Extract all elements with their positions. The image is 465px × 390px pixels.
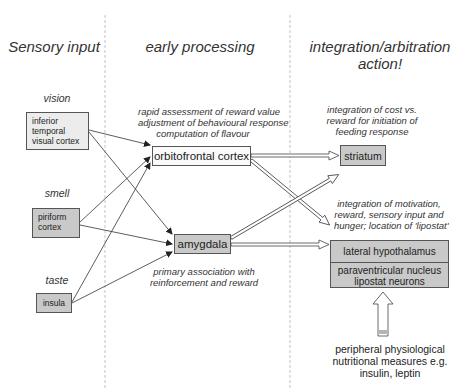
arrow-peripheral-to-hypothalamus [373, 292, 393, 336]
arrow-ofc-to-striatum [251, 151, 339, 160]
arrow-amygdala-to-lh [231, 240, 329, 249]
arrow-insula-to-ofc [72, 163, 150, 302]
connection-arrows [0, 0, 465, 390]
arrow-insula-to-amygdala [72, 252, 172, 303]
arrow-piriform-to-amygdala [80, 225, 172, 244]
arrow-it-to-amygdala [89, 132, 172, 234]
arrow-ofc-to-lh [248, 157, 332, 229]
arrow-amygdala-to-striatum [229, 171, 341, 242]
hollow-arrows [231, 151, 339, 249]
arrow-piriform-to-ofc [80, 157, 150, 222]
